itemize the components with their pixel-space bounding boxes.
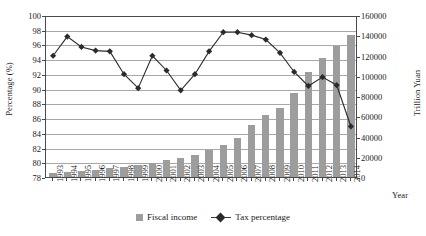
x-tick-label-1996: 1996 <box>98 165 107 182</box>
x-tickmark <box>166 178 167 181</box>
x-tickmark <box>137 178 138 181</box>
x-tickmark <box>293 178 294 181</box>
x-tickmark <box>265 178 266 181</box>
y-left-tick-label: 84 <box>0 130 41 139</box>
marker-2014 <box>348 123 354 129</box>
y-right-tickmark <box>357 16 360 17</box>
x-axis-title: Year <box>392 190 408 200</box>
x-tick-label-2003: 2003 <box>197 165 206 182</box>
x-tickmark <box>52 178 53 181</box>
x-tickmark <box>336 178 337 181</box>
x-tickmark <box>123 178 124 181</box>
y-left-tickmark <box>42 75 45 76</box>
x-tick-label-2009: 2009 <box>283 165 292 182</box>
x-tick-label-2010: 2010 <box>297 165 306 182</box>
y-right-tickmark <box>357 158 360 159</box>
y-left-tick-label: 94 <box>0 56 41 65</box>
bar-swatch-icon <box>136 214 143 221</box>
x-tickmark <box>95 178 96 181</box>
y-right-tickmark <box>357 117 360 118</box>
y-left-tick-label: 96 <box>0 41 41 50</box>
y-left-tickmark <box>42 60 45 61</box>
chart-legend: Fiscal income Tax percentage <box>0 212 426 222</box>
y-right-tickmark <box>357 138 360 139</box>
marker-2006 <box>234 29 240 35</box>
x-tick-label-2006: 2006 <box>240 165 249 182</box>
marker-2013 <box>334 82 340 88</box>
x-tick-label-1999: 1999 <box>141 165 150 182</box>
x-tickmark <box>279 178 280 181</box>
y-left-tickmark <box>42 149 45 150</box>
y-right-tick-label: 140000 <box>361 32 387 41</box>
y-left-tickmark <box>42 45 45 46</box>
x-tick-label-1994: 1994 <box>70 165 79 182</box>
x-tick-label-1997: 1997 <box>112 165 121 182</box>
y-left-tickmark <box>42 163 45 164</box>
y-right-tick-label: 40000 <box>361 134 382 143</box>
y-left-tickmark <box>42 119 45 120</box>
x-tick-label-2000: 2000 <box>155 165 164 182</box>
y-axis-right-title: Trillion Yuan <box>412 58 422 128</box>
x-tick-label-2011: 2011 <box>311 165 320 182</box>
x-tick-label-1995: 1995 <box>84 165 93 182</box>
y-left-tick-label: 90 <box>0 86 41 95</box>
y-left-tickmark <box>42 134 45 135</box>
line-series-tax-percentage <box>46 16 358 178</box>
y-left-tickmark <box>42 31 45 32</box>
legend-label-tax-percentage: Tax percentage <box>235 212 290 222</box>
x-tickmark <box>307 178 308 181</box>
x-tickmark <box>251 178 252 181</box>
y-right-tick-label: 20000 <box>361 154 382 163</box>
y-right-tick-label: 120000 <box>361 53 387 62</box>
x-tickmark <box>222 178 223 181</box>
x-tickmark <box>208 178 209 181</box>
x-tick-label-2001: 2001 <box>169 165 178 182</box>
marker-1997 <box>107 48 113 54</box>
x-tick-label-2004: 2004 <box>212 165 221 182</box>
y-left-tick-label: 100 <box>0 12 41 21</box>
y-left-tick-label: 88 <box>0 100 41 109</box>
x-tickmark <box>322 178 323 181</box>
y-left-tick-label: 78 <box>0 174 41 183</box>
legend-item-fiscal-income: Fiscal income <box>136 212 197 222</box>
tax-percentage-line <box>53 32 351 126</box>
legend-item-tax-percentage: Tax percentage <box>211 212 290 222</box>
x-tick-label-2012: 2012 <box>325 165 334 182</box>
y-left-tickmark <box>42 178 45 179</box>
y-right-tick-label: 160000 <box>361 12 387 21</box>
y-left-tickmark <box>42 90 45 91</box>
y-left-tickmark <box>42 104 45 105</box>
x-tick-label-2007: 2007 <box>254 165 263 182</box>
marker-1996 <box>93 48 99 54</box>
chart-figure: Percentage (%) Trillion Yuan Year 788082… <box>0 0 426 236</box>
x-tickmark <box>66 178 67 181</box>
y-left-tick-label: 98 <box>0 27 41 36</box>
x-tick-label-2002: 2002 <box>183 165 192 182</box>
x-tickmark <box>109 178 110 181</box>
marker-2007 <box>249 32 255 38</box>
x-tickmark <box>180 178 181 181</box>
x-tick-label-1993: 1993 <box>56 165 65 182</box>
y-right-tick-label: 100000 <box>361 73 387 82</box>
marker-2012 <box>319 74 325 80</box>
y-right-tickmark <box>357 57 360 58</box>
y-right-tickmark <box>357 36 360 37</box>
x-tick-label-1998: 1998 <box>127 165 136 182</box>
x-tickmark <box>151 178 152 181</box>
y-left-tick-label: 80 <box>0 159 41 168</box>
x-tick-label-2013: 2013 <box>339 165 348 182</box>
y-left-tick-label: 86 <box>0 115 41 124</box>
y-right-tickmark <box>357 97 360 98</box>
plot-area <box>45 16 357 178</box>
x-tickmark <box>350 178 351 181</box>
x-tick-label-2005: 2005 <box>226 165 235 182</box>
y-right-tick-label: 80000 <box>361 93 382 102</box>
x-tickmark <box>236 178 237 181</box>
x-tick-label-2014: 2014 <box>353 165 362 182</box>
y-left-tick-label: 92 <box>0 71 41 80</box>
x-tick-label-2008: 2008 <box>268 165 277 182</box>
y-right-tickmark <box>357 77 360 78</box>
y-left-tick-label: 82 <box>0 145 41 154</box>
y-right-tick-label: 60000 <box>361 113 382 122</box>
line-diamond-swatch-icon <box>211 213 231 222</box>
